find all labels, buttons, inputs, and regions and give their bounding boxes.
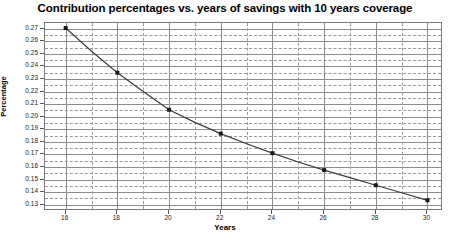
y-axis-tick-label: 0.22 (10, 87, 38, 95)
x-axis-tick-mark (116, 210, 117, 214)
data-point-marker (270, 151, 274, 155)
data-point-marker (374, 183, 378, 187)
data-point-marker (64, 26, 68, 30)
y-axis-tick-label: 0.24 (10, 61, 38, 69)
y-axis-tick-label: 0.25 (10, 49, 38, 57)
x-axis-tick-mark (220, 210, 221, 214)
y-axis-title: Percentage (0, 76, 8, 116)
x-axis-tick-mark (426, 210, 427, 214)
x-axis-tick-mark (271, 210, 272, 214)
data-point-marker (219, 132, 223, 136)
y-axis-tick-label: 0.23 (10, 74, 38, 82)
x-axis-tick-mark (323, 210, 324, 214)
y-axis-tick-label: 0.27 (10, 24, 38, 32)
data-series-line (45, 23, 442, 210)
y-axis-tick-label: 0.26 (10, 36, 38, 44)
x-axis-tick-label: 20 (156, 214, 180, 221)
data-point-marker (322, 168, 326, 172)
x-axis-tick-label: 30 (414, 214, 438, 221)
x-axis-tick-mark (168, 210, 169, 214)
y-axis-tick-label: 0.20 (10, 112, 38, 120)
x-axis-tick-label: 18 (104, 214, 128, 221)
chart-container: Contribution percentages vs. years of sa… (0, 0, 450, 240)
x-axis-tick-label: 22 (208, 214, 232, 221)
y-axis-tick-label: 0.18 (10, 137, 38, 145)
x-axis-tick-label: 28 (363, 214, 387, 221)
plot-area (44, 22, 442, 210)
data-point-marker (167, 108, 171, 112)
y-axis-tick-label: 0.14 (10, 187, 38, 195)
x-axis-tick-label: 26 (311, 214, 335, 221)
y-axis-tick-label: 0.19 (10, 124, 38, 132)
x-axis-tick-label: 16 (53, 214, 77, 221)
x-axis-tick-mark (65, 210, 66, 214)
y-axis-tick-label: 0.13 (10, 200, 38, 208)
y-axis-tick-label: 0.15 (10, 175, 38, 183)
y-axis-tick-label: 0.17 (10, 149, 38, 157)
data-point-marker (425, 198, 429, 202)
y-axis-tick-label: 0.21 (10, 99, 38, 107)
chart-title: Contribution percentages vs. years of sa… (0, 2, 450, 14)
data-point-marker (115, 71, 119, 75)
x-axis-tick-label: 24 (259, 214, 283, 221)
x-axis-tick-mark (375, 210, 376, 214)
y-axis-tick-label: 0.16 (10, 162, 38, 170)
series-line (66, 28, 428, 200)
x-axis-title: Years (0, 223, 450, 232)
